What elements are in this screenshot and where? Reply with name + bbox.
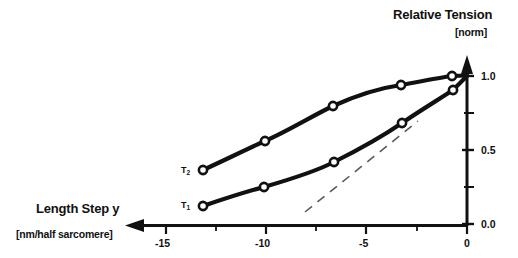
series-T1-marker: [330, 158, 338, 166]
x-axis-arrowhead-icon: [125, 219, 144, 232]
series-label-T2: T2: [181, 166, 190, 175]
series-T2-marker: [199, 166, 207, 174]
series-T1-marker: [199, 202, 207, 210]
series-T1-marker: [398, 119, 406, 127]
series-label-T1-subscript: 1: [187, 204, 191, 211]
series-T2-marker: [329, 102, 337, 110]
series-label-T2-subscript: 2: [187, 169, 191, 176]
series-T1-line: [203, 76, 467, 206]
x-tick-label: -5: [359, 238, 368, 249]
figure-container: Relative Tension [norm] Length Step y [n…: [0, 0, 518, 258]
series-T1-marker: [260, 183, 268, 191]
series-T2-line: [203, 76, 467, 171]
y-axis-unit-label: [norm]: [455, 27, 487, 38]
x-axis-unit-label: [nm/half sarcomere]: [16, 229, 113, 240]
series-T2-marker: [448, 72, 456, 80]
series-label-T1-text: T: [181, 200, 187, 210]
x-tick-label: -15: [155, 238, 170, 249]
chart-canvas: [0, 0, 518, 258]
y-tick-label: 0.5: [481, 145, 496, 156]
y-tick-label: 1.0: [481, 71, 496, 82]
y-axis-arrowhead-icon: [461, 55, 473, 74]
series-label-T1: T1: [181, 201, 190, 210]
x-axis-title: Length Step y: [36, 202, 119, 215]
x-tick-label: -10: [255, 238, 270, 249]
y-tick-label: 0.0: [481, 219, 496, 230]
y-axis-title: Relative Tension: [393, 8, 492, 21]
series-T2-marker: [397, 81, 405, 89]
series-T1-marker: [449, 86, 457, 94]
series-T2-marker: [261, 137, 269, 145]
x-tick-label: 0: [464, 238, 470, 249]
series-label-T2-text: T: [181, 165, 187, 175]
